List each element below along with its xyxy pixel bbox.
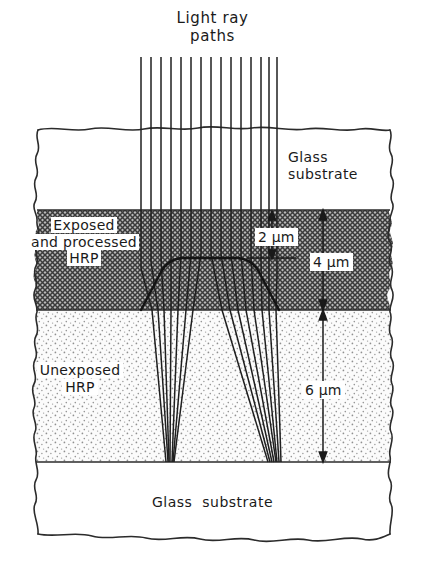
layer-unexposed-hrp	[28, 308, 396, 464]
layer-exposed-hrp	[30, 208, 396, 312]
layer-glass-bottom	[34, 462, 393, 534]
diagram-canvas	[0, 0, 425, 575]
figure-diagram: Light raypaths Glasssubstrate Exposedand…	[0, 0, 425, 575]
layer-glass-top	[34, 130, 393, 210]
